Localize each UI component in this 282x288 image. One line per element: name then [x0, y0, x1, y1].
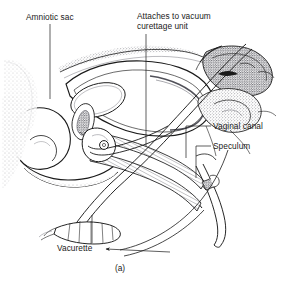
label-vaginal-canal: Vaginal canal [213, 121, 263, 131]
label-vacurette: Vacurette [57, 243, 92, 253]
figure-container: Amniotic sac Attaches to vacuum curettag… [0, 0, 282, 288]
label-amniotic-sac: Amniotic sac [26, 12, 74, 22]
label-speculum: Speculum [213, 141, 250, 151]
label-attaches-to-vacuum-curettage-unit: Attaches to vacuum curettage unit [137, 11, 233, 31]
figure-caption: (a) [0, 263, 240, 273]
label-attaches-line1: Attaches to vacuum [137, 11, 233, 21]
label-attaches-line2: curettage unit [137, 21, 233, 31]
